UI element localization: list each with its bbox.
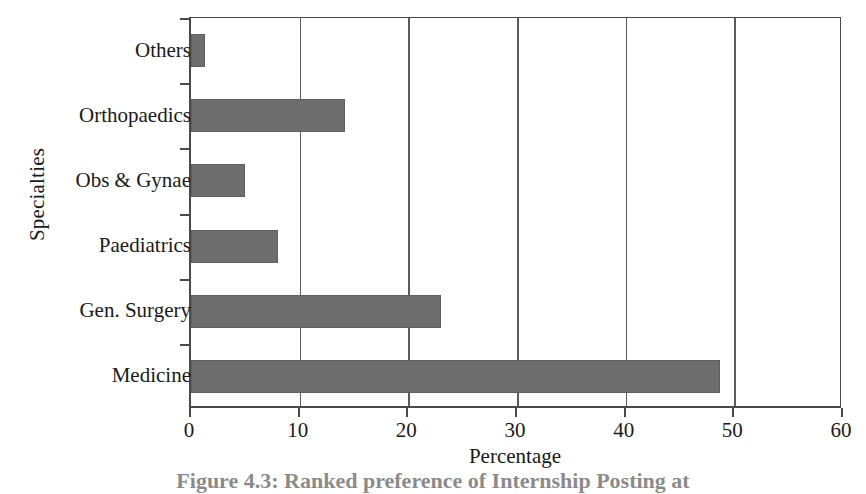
bar <box>191 295 441 328</box>
x-axis-tick <box>298 408 300 417</box>
y-axis-tick <box>180 344 191 346</box>
bar-row <box>191 148 840 213</box>
x-axis-tick <box>624 408 626 417</box>
x-axis-tick <box>732 408 734 417</box>
bar-row <box>191 279 840 344</box>
x-axis-tick <box>515 408 517 417</box>
x-axis-tick-label: 20 <box>376 418 436 443</box>
x-axis-tick <box>841 408 843 417</box>
bar <box>191 34 205 67</box>
x-axis-tick-label: 40 <box>594 418 654 443</box>
bar <box>191 164 245 197</box>
y-axis-tick <box>180 148 191 150</box>
y-axis-category-label: Orthopaedics <box>0 102 191 127</box>
x-axis-tick <box>406 408 408 417</box>
y-axis-tick <box>180 214 191 216</box>
bar <box>191 230 278 263</box>
y-axis-category-label: Obs & Gynae <box>0 167 191 192</box>
x-axis-title: Percentage <box>189 444 841 469</box>
bar <box>191 360 720 393</box>
bar <box>191 99 345 132</box>
y-axis-tick <box>180 18 191 20</box>
plot-area <box>189 17 841 408</box>
x-axis-tick <box>189 408 191 417</box>
x-axis-tick-label: 50 <box>702 418 762 443</box>
x-axis-tick-label: 30 <box>485 418 545 443</box>
bar-row <box>191 18 840 83</box>
x-axis-tick-label: 60 <box>811 418 866 443</box>
y-axis-category-label: Gen. Surgery <box>0 298 191 323</box>
y-axis-tick <box>180 279 191 281</box>
figure-caption: Figure 4.3: Ranked preference of Interns… <box>0 468 866 494</box>
y-axis-category-label: Paediatrics <box>0 233 191 258</box>
y-axis-category-label: Others <box>0 37 191 62</box>
y-axis-tick <box>180 83 191 85</box>
x-axis-tick-label: 10 <box>268 418 328 443</box>
y-axis-category-label: Medicine <box>0 363 191 388</box>
x-axis-tick-label: 0 <box>159 418 219 443</box>
bar-row <box>191 214 840 279</box>
bar-row <box>191 344 840 409</box>
bar-row <box>191 83 840 148</box>
